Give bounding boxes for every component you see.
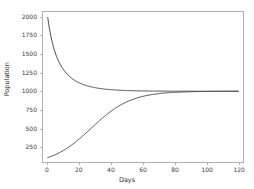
x-axis-tick-mark [47,163,48,165]
y-axis-tick-mark [40,54,42,55]
x-axis-tick-mark [175,163,176,165]
x-axis-tick-mark [207,163,208,165]
x-axis-tick-mark [111,163,112,165]
x-axis-tick-mark [239,163,240,165]
x-axis-tick-mark [79,163,80,165]
y-axis-tick-label: 1750 [0,32,37,38]
y-axis-tick-mark [40,147,42,148]
x-axis-tick-label: 60 [131,167,155,173]
line-series-decay [48,18,238,92]
y-axis-tick-mark [40,35,42,36]
curves-svg [43,12,243,162]
x-axis-tick-label: 40 [99,167,123,173]
y-axis-tick-label: 500 [0,126,37,132]
y-axis-tick-label: 250 [0,144,37,150]
y-axis-tick-mark [40,73,42,74]
y-axis-tick-label: 750 [0,107,37,113]
y-axis-tick-mark [40,110,42,111]
x-axis-title: Days [0,177,254,184]
y-axis-tick-mark [40,17,42,18]
x-axis-tick-mark [143,163,144,165]
y-axis-tick-mark [40,129,42,130]
chart-figure: 25050075010001250150017502000 0204060801… [0,0,254,189]
plot-area [42,11,244,163]
x-axis-tick-label: 0 [35,167,59,173]
x-axis-tick-label: 20 [67,167,91,173]
y-axis-tick-label: 2000 [0,14,37,20]
x-axis-tick-label: 80 [163,167,187,173]
y-axis-title: Population [4,51,11,107]
line-series-growth [48,91,238,157]
y-axis-tick-mark [40,91,42,92]
x-axis-tick-label: 100 [195,167,219,173]
x-axis-tick-label: 120 [227,167,251,173]
